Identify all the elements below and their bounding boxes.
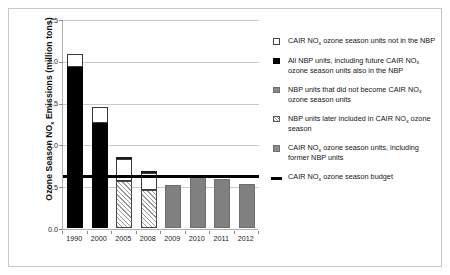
legend-item-1[interactable]: All NBP units, including future CAIR NOx…	[272, 56, 436, 76]
bar-segment-nbp_all	[67, 67, 83, 228]
legend-swatch-gray-icon	[273, 87, 280, 94]
bar-2000[interactable]	[92, 107, 108, 228]
y-axis-tick-label: 2.5	[32, 17, 58, 24]
y-axis-tick-label: 0.5	[32, 184, 58, 191]
legend-item-label: NBP units that did not become CAIR NOx o…	[288, 85, 436, 105]
x-axis-tick-label-2000: 2000	[87, 234, 112, 243]
x-axis-tick	[209, 231, 210, 234]
legend-item-2[interactable]: NBP units that did not become CAIR NOx o…	[272, 85, 436, 105]
legend-swatch-host	[272, 56, 288, 65]
x-axis-tick	[62, 231, 63, 234]
bar-2010[interactable]	[190, 176, 206, 228]
bar-slot	[63, 19, 88, 228]
bar-segment-cair_incl_nbp	[239, 184, 255, 228]
x-axis-tick-label-2008: 2008	[136, 234, 161, 243]
bar-segment-cair_incl_nbp	[165, 185, 181, 228]
bar-2009[interactable]	[165, 185, 181, 228]
legend-swatch-white-icon	[273, 38, 280, 45]
legend-item-label: All NBP units, including future CAIR NOx…	[288, 56, 436, 76]
x-axis-tick-label-2009: 2009	[160, 234, 185, 243]
y-axis-tick	[59, 229, 63, 230]
chart-legend: CAIR NOx ozone season units not in the N…	[272, 36, 436, 192]
bar-1990[interactable]	[67, 54, 83, 228]
bar-segment-cair_incl_nbp	[190, 176, 206, 228]
bar-slot	[186, 19, 211, 228]
x-axis-tick-label-1990: 1990	[62, 234, 87, 243]
x-axis-tick	[111, 231, 112, 234]
legend-item-label: CAIR NOx ozone season units, including f…	[288, 143, 436, 163]
bar-segment-cair_incl_nbp	[214, 179, 230, 228]
x-axis-tick	[234, 231, 235, 234]
bar-slot	[210, 19, 235, 228]
x-axis-tick	[185, 231, 186, 234]
x-axis-tick	[160, 231, 161, 234]
bar-slot	[88, 19, 113, 228]
y-axis-tick-label: 2.0	[32, 58, 58, 65]
legend-item-5[interactable]: CAIR NOx ozone season budget	[272, 172, 436, 182]
legend-item-label: CAIR NOx ozone season units not in the N…	[288, 36, 436, 46]
chart-root: Ozone Season NOx Emissions (million tons…	[0, 0, 450, 275]
legend-item-4[interactable]: CAIR NOx ozone season units, including f…	[272, 143, 436, 163]
bar-2008[interactable]	[141, 172, 157, 228]
x-axis-tick-label-2011: 2011	[209, 234, 234, 243]
legend-swatch-grayline-icon	[271, 177, 282, 179]
legend-item-label: CAIR NOx ozone season budget	[288, 172, 436, 182]
x-axis-tick	[87, 231, 88, 234]
bar-2005[interactable]	[116, 158, 132, 228]
bar-group	[63, 19, 259, 228]
bar-slot	[235, 19, 260, 228]
legend-item-3[interactable]: NBP units later included in CAIR NOx ozo…	[272, 114, 436, 134]
legend-swatch-gray-icon	[273, 145, 280, 152]
legend-swatch-hatch-icon	[273, 116, 280, 123]
bar-slot	[112, 19, 137, 228]
bar-slot	[137, 19, 162, 228]
plot-area	[62, 20, 258, 230]
budget-reference-line	[63, 175, 259, 178]
bar-segment-nbp_not_cair	[141, 171, 157, 173]
y-axis-tick-label: 1.5	[32, 100, 58, 107]
legend-swatch-black-icon	[273, 58, 280, 65]
bar-segment-nbp_later_cair	[116, 181, 132, 228]
y-axis-tick-labels: 0.00.51.01.52.02.5	[30, 20, 58, 232]
x-axis-tick	[258, 231, 259, 234]
bar-segment-cair_not_nbp	[67, 54, 83, 67]
legend-swatch-host	[272, 172, 288, 179]
x-axis-tick-label-2010: 2010	[185, 234, 210, 243]
legend-swatch-host	[272, 36, 288, 45]
x-axis-tick-label-2012: 2012	[234, 234, 259, 243]
y-axis-tick-label: 1.0	[32, 142, 58, 149]
bar-segment-cair_not_nbp	[92, 107, 108, 123]
bar-2011[interactable]	[214, 179, 230, 228]
legend-item-label: NBP units later included in CAIR NOx ozo…	[288, 114, 436, 134]
bar-segment-nbp_later_cair	[141, 190, 157, 228]
bar-segment-cair_not_nbp	[116, 159, 132, 181]
bar-segment-nbp_not_cair	[116, 157, 132, 159]
legend-item-0[interactable]: CAIR NOx ozone season units not in the N…	[272, 36, 436, 46]
x-axis-tick	[136, 231, 137, 234]
legend-swatch-host	[272, 143, 288, 152]
y-axis-tick-label: 0.0	[32, 226, 58, 233]
x-axis-tick-labels: 19902000200520082009201020112012	[62, 234, 258, 248]
bar-slot	[161, 19, 186, 228]
x-axis-tick-label-2005: 2005	[111, 234, 136, 243]
bar-2012[interactable]	[239, 184, 255, 228]
plot-area-wrapper	[62, 20, 258, 232]
legend-swatch-host	[272, 114, 288, 123]
legend-swatch-host	[272, 85, 288, 94]
